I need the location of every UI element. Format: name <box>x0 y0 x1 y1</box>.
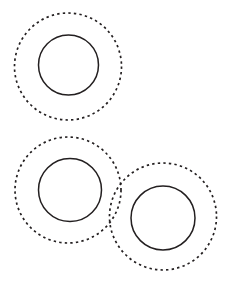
figure-canvas <box>0 0 227 283</box>
group-top-left <box>15 13 122 120</box>
group-bottom-left <box>15 137 121 243</box>
group-bottom-right <box>110 163 217 270</box>
inner-solid-circle-bottom-left <box>39 159 102 222</box>
outer-dashed-circle-bottom-left <box>15 137 121 243</box>
inner-solid-circle-top-left <box>39 35 99 95</box>
outer-dashed-circle-bottom-right <box>110 163 217 270</box>
inner-solid-circle-bottom-right <box>131 186 195 250</box>
circles-diagram <box>0 0 227 283</box>
outer-dashed-circle-top-left <box>15 13 122 120</box>
